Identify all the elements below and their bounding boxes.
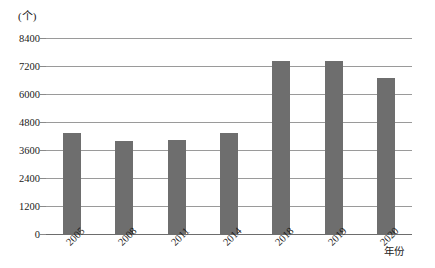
y-axis-unit-label: (个) — [18, 10, 36, 23]
gridline — [46, 94, 412, 95]
bar-chart: (个) 01200240036004800600072008400 200520… — [0, 0, 435, 268]
y-axis-ticks: 01200240036004800600072008400 — [0, 38, 40, 234]
y-axis-tick-label: 3600 — [0, 145, 40, 156]
gridline — [46, 38, 412, 39]
bar — [115, 141, 133, 234]
bar — [272, 61, 290, 234]
y-axis-tick-label: 4800 — [0, 117, 40, 128]
y-axis-tick-label: 2400 — [0, 173, 40, 184]
bar — [63, 133, 81, 234]
gridline — [46, 122, 412, 123]
y-axis-tick-label: 7200 — [0, 61, 40, 72]
plot-area — [46, 38, 412, 234]
x-axis-title: 年份 — [384, 243, 404, 258]
gridline — [46, 66, 412, 67]
bar — [325, 61, 343, 234]
bar — [168, 140, 186, 234]
y-axis-tick-label: 1200 — [0, 201, 40, 212]
bar — [377, 78, 395, 234]
y-axis-tick-label: 6000 — [0, 89, 40, 100]
y-axis-tick-label: 0 — [0, 229, 40, 240]
bar — [220, 133, 238, 235]
y-axis-tick-label: 8400 — [0, 33, 40, 44]
